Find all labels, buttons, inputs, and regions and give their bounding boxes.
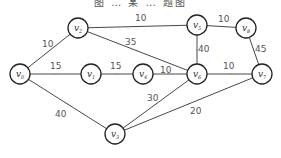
edge-weight-label: 40 xyxy=(55,109,67,119)
arrowhead-icon xyxy=(136,50,140,51)
edge-weight-label: 10 xyxy=(160,65,172,75)
node-v7: v7 xyxy=(252,64,272,84)
arrowhead-icon xyxy=(154,103,157,105)
edge-weight-label: 35 xyxy=(125,37,136,47)
arrowhead-icon xyxy=(66,103,69,105)
node-v5: v5 xyxy=(187,15,207,35)
node-v4: v4 xyxy=(133,64,153,84)
edge-weight-label: 10 xyxy=(218,14,230,24)
edge-weight-label: 20 xyxy=(190,106,202,116)
edge-weight-label: 15 xyxy=(50,61,61,71)
directed-graph: v0v1v2v3v4v5v6v7v8 101540103515104010104… xyxy=(0,0,281,158)
node-v2: v2 xyxy=(68,18,88,38)
node-v0: v0 xyxy=(10,64,30,84)
edge-weight-label: 45 xyxy=(255,44,266,54)
edge-weight-label: 10 xyxy=(223,61,235,71)
node-v8: v8 xyxy=(236,18,256,38)
edge-weight-label: 10 xyxy=(135,13,147,23)
node-v6: v6 xyxy=(187,64,207,84)
node-v1: v1 xyxy=(81,64,101,84)
arrowhead-icon xyxy=(47,50,50,52)
edge-weight-label: 15 xyxy=(110,61,121,71)
edge-weight-label: 10 xyxy=(42,39,54,49)
edge-weight-label: 40 xyxy=(198,44,210,54)
arrowhead-icon xyxy=(187,103,191,105)
edge-weight-label: 30 xyxy=(147,93,159,103)
node-v3: v3 xyxy=(105,124,125,144)
